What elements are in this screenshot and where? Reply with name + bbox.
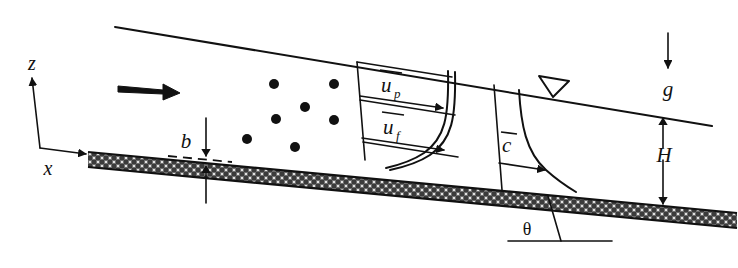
- slope-angle-label: θ: [523, 219, 532, 239]
- depth-dimension-group: H: [655, 118, 673, 204]
- free-surface-triangle-shape: [539, 76, 569, 97]
- free-surface-triangle-icon: [539, 76, 569, 97]
- coordinate-axes: z x: [27, 52, 86, 179]
- gravity-vector-group: g: [663, 33, 674, 101]
- bed-thickness-label: b: [181, 129, 192, 153]
- particle-dot: [329, 79, 339, 89]
- particle-dot: [269, 79, 279, 89]
- flow-arrow-icon: [118, 84, 180, 100]
- velocity-axis-line: [357, 62, 365, 160]
- inclined-channel-diagram: z x b: [0, 0, 738, 268]
- concentration-label: c: [502, 133, 512, 157]
- particle-dot: [290, 142, 300, 152]
- bed-top-edge: [88, 152, 737, 213]
- free-surface-line: [115, 27, 712, 126]
- figure-container: z x b: [0, 0, 738, 268]
- concentration-arrow-icon: [499, 163, 545, 170]
- concentration-profile-curve: [519, 90, 576, 192]
- suspended-particles: [242, 79, 339, 152]
- z-axis-label: z: [27, 52, 36, 74]
- bed-bottom-edge: [88, 167, 737, 228]
- velocity-profile-group: u p u f: [357, 62, 458, 170]
- velocity-fluid-label: u: [383, 115, 394, 139]
- depth-label: H: [655, 143, 673, 167]
- x-axis-label: x: [43, 157, 53, 179]
- velocity-particle-subscript: p: [393, 86, 401, 101]
- velocity-fluid-label-group: u f: [382, 112, 404, 143]
- particle-dot: [271, 114, 281, 124]
- particle-dot: [329, 115, 339, 125]
- z-axis-arrow: [32, 78, 40, 148]
- x-axis-arrow: [40, 148, 86, 154]
- velocity-particle-label: u: [381, 73, 392, 97]
- particle-dot: [242, 134, 252, 144]
- flow-arrow-shape: [118, 84, 180, 100]
- concentration-axis-line: [494, 85, 502, 190]
- gravity-label: g: [663, 77, 674, 101]
- particle-dot: [300, 102, 310, 112]
- concentration-label-group: c: [501, 132, 517, 157]
- velocity-fluid-subscript: f: [396, 128, 402, 143]
